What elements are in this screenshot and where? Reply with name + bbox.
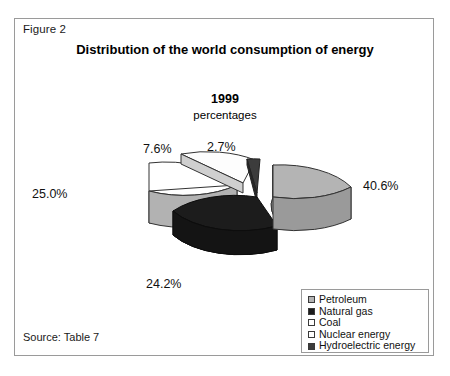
legend-item-hydroelectric-energy: Hydroelectric energy (308, 340, 428, 352)
pie-slice-natural-gas (173, 195, 277, 254)
legend-swatch-icon (308, 308, 315, 315)
legend-label: Petroleum (319, 294, 367, 306)
legend-label: Hydroelectric energy (319, 340, 415, 352)
pie-value-coal: 25.0% (32, 187, 67, 201)
legend-swatch-icon (308, 296, 315, 303)
legend-swatch-icon (308, 343, 315, 350)
legend-swatch-icon (308, 319, 315, 326)
pie-value-natural-gas: 24.2% (146, 277, 181, 291)
legend-item-petroleum: Petroleum (308, 294, 428, 306)
legend-swatch-icon (308, 331, 315, 338)
chart-legend: Petroleum Natural gas Coal Nuclear energ… (301, 289, 429, 353)
pie-value-petroleum: 40.6% (363, 179, 398, 193)
pie-slice-petroleum-body (273, 165, 351, 231)
pie-value-nuclear: 7.6% (143, 142, 172, 156)
figure-frame: Figure 2 Distribution of the world consu… (14, 18, 434, 356)
source-note: Source: Table 7 (23, 331, 99, 343)
pie-value-hydroelectric: 2.7% (207, 140, 236, 154)
